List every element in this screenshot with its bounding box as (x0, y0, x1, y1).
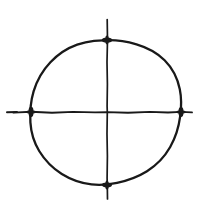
top-intersection-mark-cross (105, 36, 109, 45)
hand-drawn-circle-diagram: Hand-drawn circle bisected by vertical a… (0, 0, 206, 216)
bottom-intersection-mark-cross (105, 180, 109, 189)
left-intersection-mark-cross (26, 110, 36, 113)
right-intersection-mark-cross (176, 110, 185, 113)
horizontal-axis-line (14, 112, 193, 113)
vertical-axis-line (107, 20, 108, 200)
drawing-canvas: Hand-drawn circle bisected by vertical a… (0, 0, 206, 216)
